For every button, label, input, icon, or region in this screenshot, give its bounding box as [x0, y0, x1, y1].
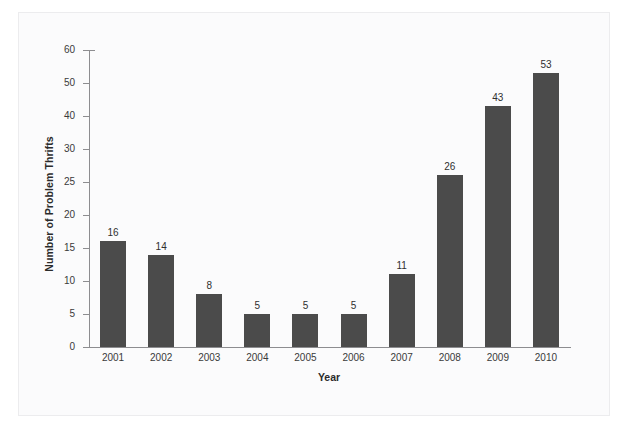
x-axis-tick-label: 2006: [330, 352, 378, 363]
y-axis-tick-label: 50: [35, 78, 75, 88]
bar-value-label: 26: [430, 161, 470, 172]
y-axis-tick-label: 30: [35, 144, 75, 154]
y-axis-top-cap: [89, 50, 95, 51]
y-axis-tick-mark: [83, 281, 89, 282]
x-axis-tick-label: 2010: [522, 352, 570, 363]
y-axis-tick-label: 10: [35, 276, 75, 286]
bar: [389, 274, 415, 347]
bar-value-label: 53: [526, 59, 566, 70]
y-axis-tick-label: 60: [35, 45, 75, 55]
x-axis-tick-label: 2002: [137, 352, 185, 363]
y-axis-tick-label: 40: [35, 111, 75, 121]
y-axis-tick-label: 15: [35, 243, 75, 253]
bar: [100, 241, 126, 347]
y-axis-tick-label: 20: [35, 210, 75, 220]
bar: [244, 314, 270, 347]
bar: [485, 106, 511, 347]
y-axis-tick-mark: [83, 347, 89, 348]
bar-value-label: 43: [478, 92, 518, 103]
bar-chart: Number of Problem Thrifts Year 051015202…: [0, 0, 627, 441]
bar-value-label: 8: [189, 280, 229, 291]
x-axis-tick-label: 2004: [233, 352, 281, 363]
x-axis-title: Year: [88, 371, 570, 383]
x-axis-tick-label: 2001: [89, 352, 137, 363]
y-axis-tick-mark: [83, 215, 89, 216]
bar-value-label: 5: [237, 300, 277, 311]
bar: [292, 314, 318, 347]
bar-value-label: 16: [93, 227, 133, 238]
bar-value-label: 14: [141, 241, 181, 252]
y-axis-tick-mark: [83, 248, 89, 249]
y-axis-tick-mark: [83, 83, 89, 84]
x-axis-tick-label: 2003: [185, 352, 233, 363]
x-axis-tick-label: 2005: [281, 352, 329, 363]
bar: [533, 73, 559, 347]
y-axis-tick-mark: [83, 314, 89, 315]
bar-value-label: 11: [382, 260, 422, 271]
x-axis-line: [89, 347, 571, 348]
bar: [148, 255, 174, 347]
y-axis-tick-mark: [83, 149, 89, 150]
y-axis-tick-mark: [83, 50, 89, 51]
y-axis-tick-mark: [83, 182, 89, 183]
y-axis-tick-label: 0: [35, 342, 75, 352]
bar: [341, 314, 367, 347]
bar: [437, 175, 463, 347]
x-axis-tick-label: 2008: [426, 352, 474, 363]
y-axis-tick-label: 5: [35, 309, 75, 319]
y-axis-tick-label: 25: [35, 177, 75, 187]
bar-value-label: 5: [285, 300, 325, 311]
bar: [196, 294, 222, 347]
y-axis-line: [89, 50, 90, 348]
x-axis-tick-label: 2009: [474, 352, 522, 363]
x-axis-tick-label: 2007: [378, 352, 426, 363]
bar-value-label: 5: [334, 300, 374, 311]
y-axis-tick-mark: [83, 116, 89, 117]
